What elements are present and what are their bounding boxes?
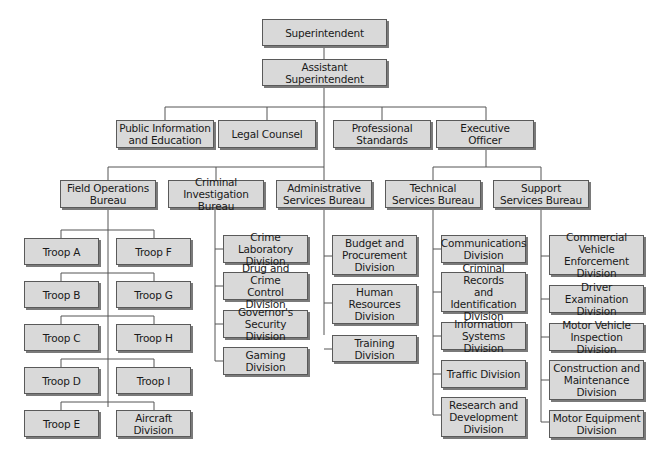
node-administrative-services-bureau: Administrative Services Bureau	[276, 180, 372, 208]
org-chart: Superintendent Assistant Superintendent …	[0, 0, 669, 460]
node-superintendent: Superintendent	[262, 19, 387, 46]
node-aircraft-division: Aircraft Division	[116, 410, 191, 437]
node-assistant-superintendent: Assistant Superintendent	[262, 59, 387, 86]
node-executive-officer: Executive Officer	[436, 120, 534, 148]
node-training-division: Training Division	[332, 335, 417, 362]
node-gaming-division: Gaming Division	[223, 347, 308, 375]
node-troop-h: Troop H	[116, 324, 191, 351]
node-troop-a: Troop A	[24, 238, 99, 265]
node-legal-counsel: Legal Counsel	[218, 120, 316, 148]
node-budget-procurement: Budget and Procurement Division	[332, 235, 417, 275]
node-communications: Communications Division	[441, 235, 526, 263]
node-construction-maintenance: Construction and Maintenance Division	[549, 360, 644, 400]
node-troop-g: Troop G	[116, 281, 191, 308]
node-governors-security: Governor's Security Division	[223, 310, 308, 338]
node-criminal-investigation-bureau: Criminal Investigation Bureau	[168, 180, 264, 208]
node-motor-equipment: Motor Equipment Division	[549, 410, 644, 438]
node-professional-standards: Professional Standards	[333, 120, 431, 148]
node-commercial-vehicle-enforcement: Commercial Vehicle Enforcement Division	[549, 235, 644, 275]
node-human-resources: Human Resources Division	[332, 284, 417, 324]
node-support-services-bureau: Support Services Bureau	[493, 180, 589, 208]
node-drug-crime-control: Drug and Crime Control Division	[223, 272, 308, 300]
node-troop-d: Troop D	[24, 367, 99, 394]
node-field-operations-bureau: Field Operations Bureau	[60, 180, 156, 208]
node-criminal-records: Criminal Records and Identification Divi…	[441, 272, 526, 312]
node-crime-laboratory: Crime Laboratory Division	[223, 235, 308, 263]
node-troop-i: Troop I	[116, 367, 191, 394]
node-troop-f: Troop F	[116, 238, 191, 265]
node-public-information: Public Information and Education	[116, 120, 214, 148]
node-troop-b: Troop B	[24, 281, 99, 308]
node-troop-e: Troop E	[24, 410, 99, 437]
node-traffic-division: Traffic Division	[441, 360, 526, 388]
node-information-systems: Information Systems Division	[441, 322, 526, 350]
node-troop-c: Troop C	[24, 324, 99, 351]
node-driver-examination: Driver Examination Division	[549, 285, 644, 313]
node-technical-services-bureau: Technical Services Bureau	[385, 180, 481, 208]
node-research-development: Research and Development Division	[441, 397, 526, 437]
node-motor-vehicle-inspection: Motor Vehicle Inspection Division	[549, 323, 644, 351]
